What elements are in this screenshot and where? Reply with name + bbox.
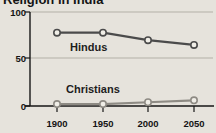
marker-hindus <box>145 37 151 43</box>
marker-christians <box>54 101 60 107</box>
x-tick-label-1950: 1950 <box>92 118 113 129</box>
marker-hindus <box>54 29 60 35</box>
x-tick-label-1900: 1900 <box>46 118 67 129</box>
plot-area <box>0 0 216 133</box>
religion-in-india-chart: Religion in India 100 50 0 1900 1950 200… <box>0 0 216 133</box>
x-tick-label-2000: 2000 <box>137 118 158 129</box>
y-tick-label-100: 100 <box>10 7 26 18</box>
series-label-hindus: Hindus <box>70 41 107 53</box>
series-label-christians: Christians <box>66 83 120 95</box>
line-christians <box>57 100 194 104</box>
x-tick-label-2050: 2050 <box>183 118 204 129</box>
marker-christians <box>191 97 197 103</box>
y-tick-label-0: 0 <box>21 101 26 112</box>
marker-christians <box>145 99 151 105</box>
marker-hindus <box>191 42 197 48</box>
y-tick-label-50: 50 <box>15 53 26 64</box>
marker-hindus <box>100 29 106 35</box>
marker-christians <box>100 101 106 107</box>
